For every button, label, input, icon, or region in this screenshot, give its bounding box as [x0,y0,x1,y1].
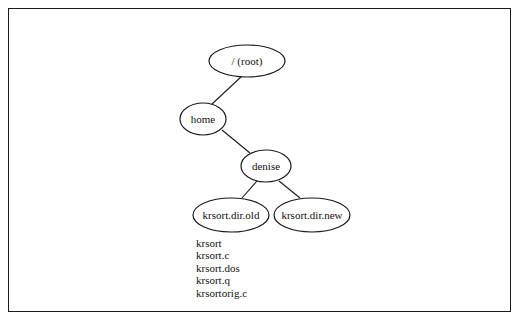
node-home-label: home [191,113,216,125]
node-root-label: / (root) [232,55,263,68]
node-denise-label: denise [252,160,280,172]
edge-home-denise [222,130,250,153]
edge-denise-new [279,181,300,198]
edge-root-home [212,76,242,104]
tree-diagram: / (root) home denise krsort.dir.old krso… [0,0,518,319]
file-item: krsort.q [196,274,247,286]
file-item: krsort [196,237,247,249]
edge-denise-old [242,181,257,198]
file-item: krsort.c [196,249,247,261]
node-krsort-dir-new-label: krsort.dir.new [281,209,342,221]
file-item: krsort.dos [196,262,247,274]
file-item: krsortorig.c [196,287,247,299]
file-list: krsort krsort.c krsort.dos krsort.q krso… [196,237,247,299]
node-krsort-dir-old-label: krsort.dir.old [203,209,260,221]
